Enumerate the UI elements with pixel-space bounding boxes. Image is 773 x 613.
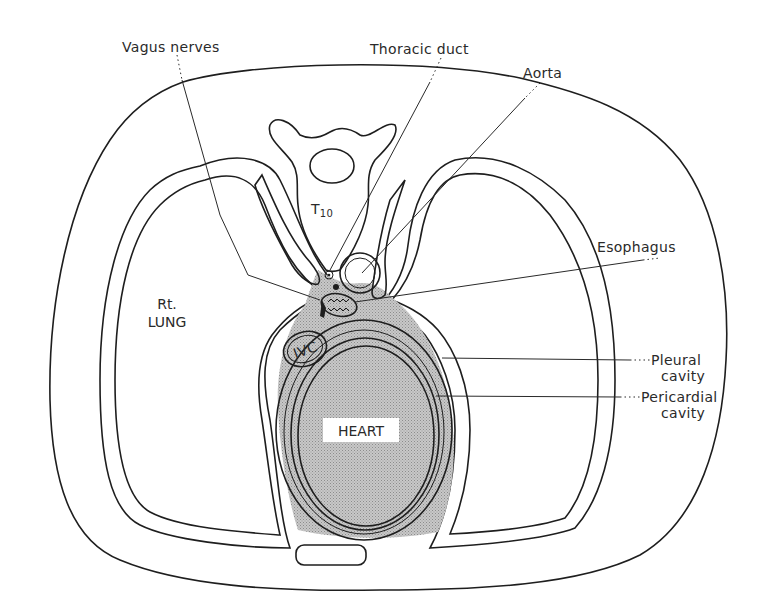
- rt-lung-label-line2: LUNG: [148, 314, 187, 330]
- mediastinum: [278, 270, 454, 538]
- label-esophagus: Esophagus: [597, 239, 676, 255]
- vertebra-t10: [269, 120, 396, 272]
- label-pleural-cavity-1: Pleural: [651, 352, 701, 368]
- label-pericardial-cavity-1: Pericardial: [641, 389, 718, 405]
- aorta-leader: [362, 98, 525, 273]
- left-crus: [372, 180, 405, 298]
- azygos-vein: [333, 284, 339, 290]
- label-pericardial-cavity-2: cavity: [661, 405, 705, 421]
- vertebra-label: T10: [310, 201, 333, 219]
- right-crus: [255, 175, 320, 284]
- heart-label: HEART: [338, 423, 385, 439]
- vagus-leader: [182, 80, 320, 300]
- aorta-leader-dotted: [525, 83, 540, 98]
- pleural-leader: [442, 358, 630, 360]
- sternum: [296, 545, 366, 565]
- label-vagus-nerves: Vagus nerves: [122, 39, 220, 55]
- label-pleural-cavity-2: cavity: [661, 368, 705, 384]
- label-aorta: Aorta: [523, 65, 562, 81]
- label-thoracic-duct: Thoracic duct: [369, 41, 469, 57]
- esophagus-leader-dotted: [643, 258, 660, 260]
- rt-lung-label-line1: Rt.: [157, 296, 177, 312]
- thoracic-duct-leader-dotted: [430, 58, 441, 82]
- vagus-leader-dotted: [177, 55, 182, 80]
- thoracic-duct-lumen: [328, 274, 331, 277]
- pericardial-leader: [436, 396, 620, 397]
- thorax-cross-section-diagram: HEART IVC T10 Rt. LUNG Vagus nerves Thor…: [0, 0, 773, 613]
- vertebral-foramen: [310, 149, 354, 183]
